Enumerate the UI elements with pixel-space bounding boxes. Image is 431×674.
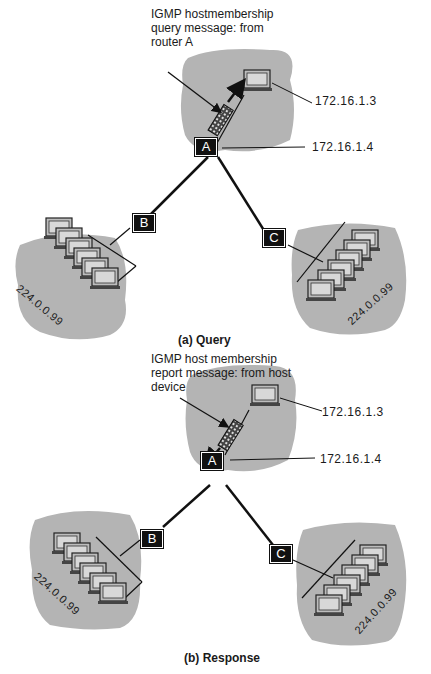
annotation-line: report message: from host <box>151 366 291 380</box>
annotation-line: router A <box>151 35 274 49</box>
router-b: B <box>133 214 155 232</box>
router-b-b: B <box>141 530 163 548</box>
caption-response: (b) Response <box>184 651 260 665</box>
router-a: A <box>195 138 217 156</box>
pc-group-b-icon <box>90 268 120 289</box>
router-a-b: A <box>201 452 223 470</box>
pc-group-c-icon <box>306 280 336 301</box>
panel-query <box>15 49 406 339</box>
router-ip-label-b: 172.16.1.4 <box>320 452 382 466</box>
router-c: C <box>263 229 285 247</box>
annotation-response: IGMP host membership report message: fro… <box>151 352 291 394</box>
cloud-top <box>181 49 294 151</box>
host-ip-label-b: 172.16.1.3 <box>322 405 384 419</box>
annotation-line: IGMP host membership <box>151 352 291 366</box>
host-ip-label: 172.16.1.3 <box>315 94 377 108</box>
annotation-line: query message: from <box>151 21 274 35</box>
host-pc-icon <box>242 70 272 91</box>
caption-query: (a) Query <box>178 333 231 347</box>
router-c-b: C <box>270 545 292 563</box>
annotation-line: device <box>151 380 291 394</box>
annotation-query: IGMP hostmembership query message: from … <box>151 7 274 49</box>
router-ip-label: 172.16.1.4 <box>312 140 374 154</box>
annotation-line: IGMP hostmembership <box>151 7 274 21</box>
